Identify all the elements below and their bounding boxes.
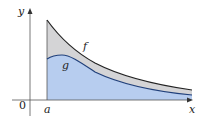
curve-g-label: g [62, 59, 69, 72]
origin-label: 0 [19, 99, 26, 112]
y-axis-label: y [17, 5, 25, 18]
curve-f-label: f [82, 40, 89, 53]
bound-a-label: a [44, 103, 51, 116]
area-between-curves-diagram: y x 0 a f g [0, 0, 205, 128]
x-axis-label: x [189, 103, 196, 116]
y-axis-arrow-icon [28, 8, 33, 14]
